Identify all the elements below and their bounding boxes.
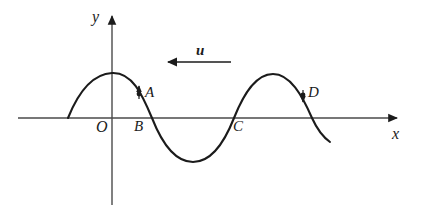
- x-axis-label: x: [392, 126, 399, 142]
- point-label-a: A: [145, 85, 154, 100]
- origin-label: O: [96, 119, 108, 135]
- wave-diagram-figure: y x O A B C D u: [0, 0, 431, 210]
- point-label-b: B: [134, 119, 143, 134]
- y-axis-label: y: [92, 9, 99, 25]
- propagation-velocity-label: u: [196, 43, 204, 58]
- point-label-d: D: [308, 85, 319, 100]
- wave-diagram-canvas: [0, 0, 431, 210]
- point-label-c: C: [233, 119, 243, 134]
